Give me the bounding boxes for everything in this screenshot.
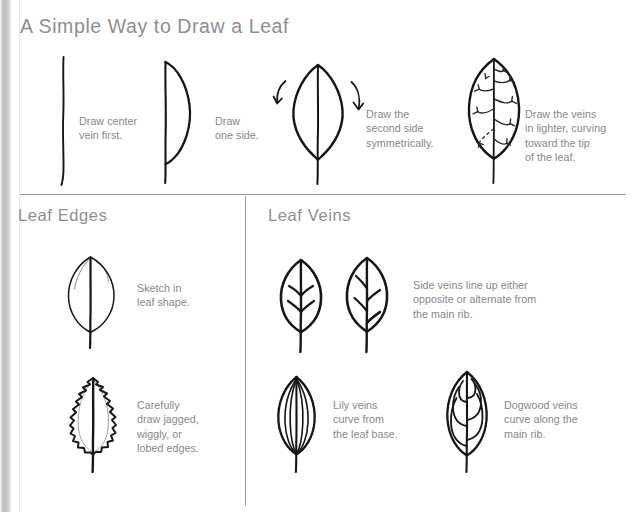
caption-veins-dogwood: Dogwood veins curve along the main rib. (504, 398, 614, 441)
caption-edges-smooth: Sketch in leaf shape. (137, 281, 229, 310)
figure-full-leaf-outline-with-arrows (272, 52, 364, 188)
figure-jagged-edge-leaf (57, 372, 137, 476)
section-title-leaf-veins: Leaf Veins (268, 206, 351, 225)
figure-alternate-vein-leaf (338, 254, 398, 356)
figure-half-leaf-outline (155, 55, 205, 187)
figure-center-vein-line (50, 55, 80, 187)
section-title-leaf-edges: Leaf Edges (18, 206, 107, 225)
figure-smooth-edge-leaf (58, 252, 132, 352)
caption-veins-side: Side veins line up either opposite or al… (413, 278, 565, 321)
caption-step-3: Draw the second side symmetrically. (366, 107, 461, 150)
figure-opposite-vein-leaf (272, 256, 332, 356)
page-margin-line (19, 0, 20, 512)
figure-leaf-with-veins (458, 55, 530, 187)
caption-veins-lily: Lily veins curve from the leaf base. (333, 398, 419, 441)
caption-edges-jagged: Carefully draw jagged, wiggly, or lobed … (137, 398, 233, 456)
figure-dogwood-vein-leaf (437, 368, 499, 476)
caption-step-1: Draw center vein first. (79, 114, 165, 143)
illustration-page: A Simple Way to Draw a Leaf Draw center … (0, 0, 637, 512)
page-gutter-shadow (0, 0, 12, 512)
section-divider-vertical (245, 196, 246, 506)
figure-lily-vein-leaf (268, 372, 326, 476)
page-title: A Simple Way to Draw a Leaf (20, 15, 289, 38)
section-divider-horizontal (20, 194, 626, 195)
caption-step-4: Draw the veins in lighter, curving towar… (525, 107, 631, 165)
